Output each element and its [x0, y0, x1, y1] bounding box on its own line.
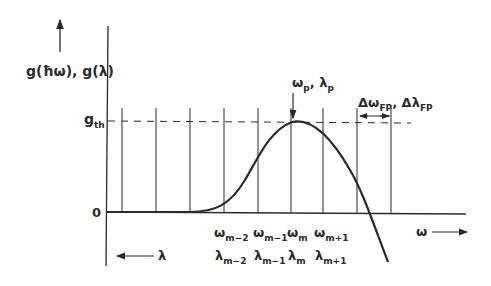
peak-label: ωp, λp	[292, 76, 334, 93]
omega-mode-0: ωm−2	[214, 226, 249, 243]
y-axis	[106, 26, 108, 266]
lambda-mode-0: λm−2	[215, 249, 246, 266]
threshold-label: gth	[84, 112, 105, 130]
omega-mode-1: ωm−1	[253, 226, 288, 243]
gain-diagram	[0, 0, 491, 286]
zero-label: 0	[92, 206, 101, 219]
lambda-mode-1: λm−1	[254, 249, 285, 266]
omega-mode-2: ωm	[287, 226, 308, 243]
fsr-label: ΔωFP, ΔλFP	[358, 96, 433, 113]
omega-mode-3: ωm+1	[314, 226, 349, 243]
omega-axis-label: ω	[416, 225, 427, 238]
lambda-axis-label: λ	[158, 249, 166, 262]
lambda-mode-2: λm	[288, 249, 306, 266]
y-axis-label: g(ħω), g(λ)	[26, 64, 114, 78]
threshold-line	[108, 121, 411, 123]
lambda-mode-3: λm+1	[315, 249, 346, 266]
